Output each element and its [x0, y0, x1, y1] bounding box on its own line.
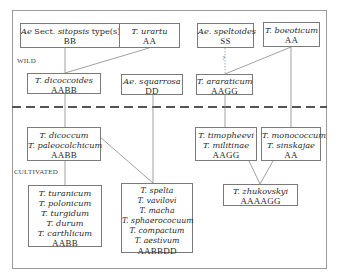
species-name: T. carthlicum — [29, 228, 101, 238]
genus-abbrev: Ae — [21, 26, 32, 36]
species-name: T. macha — [122, 206, 192, 216]
node-spelta: T. spelta T. vavilovi T. macha T. sphaer… — [121, 183, 193, 253]
species-name: T. militinae — [196, 140, 256, 150]
species-name: T. sphaerococuum — [122, 216, 192, 226]
species-name: T. polonicum — [29, 198, 101, 208]
zone-label-wild: WILD — [17, 57, 36, 65]
species-name: T. monococcum — [262, 130, 320, 140]
species-name: T. spelta — [122, 186, 192, 196]
node-dicoccum: T. dicoccum T. paleocolchicum AABB — [27, 127, 101, 161]
node-monococcum: T. monococcum T. sinskajae AA — [261, 127, 321, 161]
species-name: T. sinskajae — [262, 140, 320, 150]
species-name: T. urartu — [120, 26, 179, 36]
species-name: T. durum — [29, 218, 101, 228]
genome-label: AABB — [29, 238, 101, 248]
genome-label: AAAAGG — [224, 196, 297, 206]
node-sitopsis: Ae Sect. sitopsis type(s) BB — [20, 23, 120, 48]
genome-label: DD — [122, 86, 182, 96]
genome-label: AAGG — [197, 86, 252, 96]
species-name: T. zhukovskyi — [224, 186, 297, 196]
node-boeoticum: T. boeoticum AA — [263, 22, 320, 47]
type-word: type(s) — [89, 26, 120, 36]
edge-timopheevi-zhukovskyi — [249, 161, 260, 184]
node-turanicum: T. turanicum T. polonicum T. turgidum T.… — [28, 185, 102, 247]
genome-label: AABB — [28, 150, 100, 160]
node-squarrosa: Ae. squarrosa DD — [121, 74, 183, 95]
uncertain-origin-mark: ? — [222, 54, 225, 62]
species-name: T. timopheevi — [196, 130, 256, 140]
species-name: Ae Sect. sitopsis type(s) — [21, 26, 119, 36]
genome-label: AA — [262, 150, 320, 160]
species-name: T. dicoccum — [28, 130, 100, 140]
species-name: T. compactum — [122, 226, 192, 236]
species-name: T. vavilovi — [122, 196, 192, 206]
genome-label: AABBDD — [122, 246, 192, 256]
species-name: T. dicoccoides — [28, 75, 100, 85]
genome-label: AA — [264, 35, 319, 45]
genome-label: SS — [198, 36, 253, 46]
node-zhukovskyi: T. zhukovskyi AAAAGG — [223, 184, 298, 206]
zone-label-cultivated: CULTIVATED — [14, 168, 58, 176]
species-name: T. turanicum — [29, 188, 101, 198]
genome-label: AA — [120, 36, 179, 46]
section-word: Sect. — [32, 26, 58, 36]
node-dicoccoides: T. dicoccoides AABB — [27, 73, 101, 94]
species-name: T. boeoticum — [264, 25, 319, 35]
genome-label: AAGG — [196, 150, 256, 160]
species-name: Ae. speltoides — [198, 26, 253, 36]
edge-dicoccum-spelta — [100, 137, 153, 183]
edge-monococcum-zhukovskyi — [260, 161, 273, 184]
species-name: T. paleocolchicum — [28, 140, 100, 150]
species-name: Ae. squarrosa — [122, 76, 182, 86]
species-name: T. turgidum — [29, 208, 101, 218]
genome-label: BB — [21, 36, 119, 46]
node-speltoides: Ae. speltoides SS — [197, 23, 254, 48]
node-timopheevi: T. timopheevi T. militinae AAGG — [195, 127, 257, 161]
species-name: T. araraticum — [197, 76, 252, 86]
node-araraticum: T. araraticum AAGG — [196, 74, 253, 95]
species-name: T. aestivum — [122, 236, 192, 246]
edge-urartu-dicoccoides — [65, 48, 149, 73]
genome-label: AABB — [28, 85, 100, 95]
node-urartu: T. urartu AA — [119, 23, 180, 48]
section-name: sitopsis — [58, 26, 89, 36]
edge-boeoticum-araraticum — [225, 47, 291, 74]
